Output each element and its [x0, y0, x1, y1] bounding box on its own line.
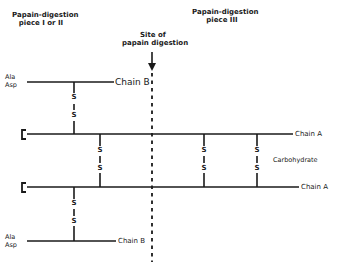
disulfide-s-label: S: [96, 165, 104, 172]
disulfide-s-label: S: [253, 147, 261, 154]
disulfide-s-label: S: [70, 94, 78, 101]
disulfide-s-label: S: [200, 165, 208, 172]
antibody-structure-diagram: Papain-digestion piece I or II Papain-di…: [0, 0, 339, 263]
top-chain-b-label: Chain B: [115, 77, 150, 87]
chain-a-upper-label: Chain A: [295, 130, 322, 138]
disulfide-s-label: S: [200, 147, 208, 154]
chain-a-lower-label: Chain A: [301, 183, 328, 191]
disulfide-s-label: S: [70, 200, 78, 207]
disulfide-s-label: S: [96, 147, 104, 154]
disulfide-s-label: S: [253, 165, 261, 172]
arrow-down-icon: [148, 63, 156, 71]
piece-1-2-header: Papain-digestion piece I or II: [12, 11, 70, 27]
papain-site-label: Site of papain digestion: [122, 31, 184, 47]
bottom-chain-b-label: Chain B: [118, 237, 145, 245]
piece-3-header: Papain-digestion piece III: [192, 8, 252, 24]
bottom-chain-b-n-terminus: Ala Asp: [5, 234, 17, 249]
disulfide-s-label: S: [70, 112, 78, 119]
disulfide-s-label: S: [70, 218, 78, 225]
bracket-lower-icon: [22, 183, 26, 192]
bracket-upper-icon: [22, 130, 26, 139]
carbohydrate-label: Carbohydrate: [273, 156, 318, 164]
top-chain-b-n-terminus: Ala Asp: [5, 74, 17, 89]
